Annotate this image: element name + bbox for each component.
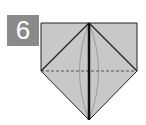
origami-diagram — [0, 0, 146, 125]
